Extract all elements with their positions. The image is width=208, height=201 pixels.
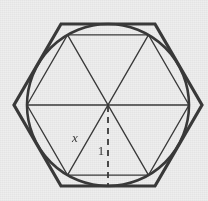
geometry-figure: x 1	[0, 0, 208, 201]
geometry-diagram-canvas: x 1	[0, 0, 208, 201]
apothem-length-label: 1	[98, 143, 105, 158]
side-length-label: x	[71, 130, 78, 145]
